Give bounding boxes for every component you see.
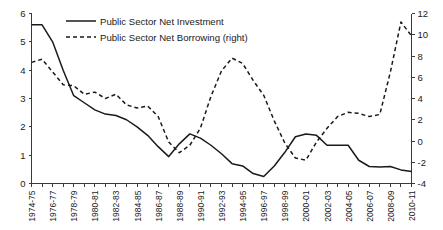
- x-axis-tick-label: 1988-89: [175, 190, 185, 221]
- left-axis-tick-label: 2: [20, 121, 25, 132]
- x-axis-tick-label: 1996-97: [259, 190, 269, 221]
- left-axis-tick-label: 3: [20, 93, 25, 104]
- left-axis-tick-label: 1: [20, 150, 25, 161]
- x-axis-tick-label: 1984-85: [133, 190, 143, 221]
- x-axis-tick-label: 2002-03: [323, 190, 333, 221]
- right-axis-ticks: -4-2024681012: [412, 8, 429, 189]
- right-axis-tick-label: -2: [418, 157, 426, 168]
- chart-container: 0123456 -4-2024681012 1974-751976-771978…: [0, 0, 443, 230]
- x-axis-tick-label: 1986-87: [154, 190, 164, 221]
- x-axis-tick-label: 1982-83: [111, 190, 121, 221]
- series-layer: [32, 22, 412, 176]
- x-axis-ticks: 1974-751976-771978-791980-811982-831984-…: [27, 184, 417, 222]
- x-axis-tick-label: 1990-91: [196, 190, 206, 221]
- right-axis-tick-label: 0: [418, 136, 423, 147]
- chart-legend: Public Sector Net Investment Public Sect…: [66, 16, 248, 43]
- left-axis-ticks: 0123456: [20, 8, 31, 189]
- legend-label-net-investment: Public Sector Net Investment: [100, 16, 224, 27]
- right-axis-tick-label: 6: [418, 72, 423, 83]
- x-axis-tick-label: 2008-09: [386, 190, 396, 221]
- right-axis-tick-label: 2: [418, 114, 423, 125]
- x-axis-tick-label: 1978-79: [69, 190, 79, 221]
- x-axis-tick-label: 1992-93: [217, 190, 227, 221]
- x-axis-tick-label: 1998-99: [280, 190, 290, 221]
- x-axis-tick-label: 1974-75: [27, 190, 37, 221]
- series-line-net-investment: [32, 25, 412, 177]
- x-axis-tick-label: 1994-95: [238, 190, 248, 221]
- right-axis-tick-label: 10: [418, 29, 429, 40]
- right-axis-tick-label: 8: [418, 51, 423, 62]
- x-axis-tick-label: 2010-11: [407, 190, 417, 221]
- left-axis-tick-label: 5: [20, 36, 25, 47]
- x-axis-tick-label: 2000-01: [301, 190, 311, 221]
- legend-label-net-borrowing: Public Sector Net Borrowing (right): [100, 32, 248, 43]
- series-line-net-borrowing: [32, 22, 412, 160]
- x-axis-tick-label: 1976-77: [48, 190, 58, 221]
- line-chart: 0123456 -4-2024681012 1974-751976-771978…: [0, 0, 443, 230]
- x-axis-tick-label: 1980-81: [90, 190, 100, 221]
- right-axis-tick-label: -4: [418, 178, 426, 189]
- x-axis-tick-label: 2004-05: [344, 190, 354, 221]
- left-axis-tick-label: 0: [20, 178, 25, 189]
- right-axis-tick-label: 4: [418, 93, 423, 104]
- left-axis-tick-label: 6: [20, 8, 25, 19]
- right-axis-tick-label: 12: [418, 8, 429, 19]
- x-axis-tick-label: 2006-07: [365, 190, 375, 221]
- left-axis-tick-label: 4: [20, 65, 25, 76]
